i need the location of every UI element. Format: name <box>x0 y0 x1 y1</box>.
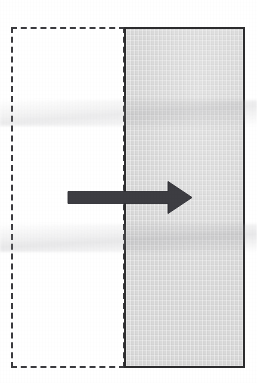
arrow-body <box>68 182 192 214</box>
displacement-arrow-icon <box>64 176 196 219</box>
figure-canvas <box>0 0 257 383</box>
